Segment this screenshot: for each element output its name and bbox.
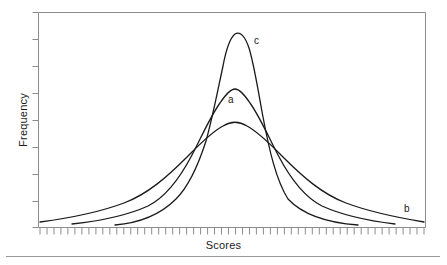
plot-frame [39, 13, 426, 228]
footer-divider [6, 256, 440, 257]
curve-label-b: b [404, 203, 410, 214]
frequency-distribution-chart [0, 0, 447, 265]
curve-label-c: c [254, 35, 259, 46]
curve-b [40, 122, 424, 222]
x-axis-label: Scores [0, 239, 447, 251]
y-axis-ticks [33, 13, 39, 228]
y-axis-label: Frequency [17, 80, 29, 160]
figure-container: Frequency Scores a c b [0, 0, 447, 265]
curve-c [115, 33, 358, 225]
curves [40, 33, 424, 225]
curve-label-a: a [228, 94, 234, 105]
x-axis-ticks [40, 228, 424, 235]
